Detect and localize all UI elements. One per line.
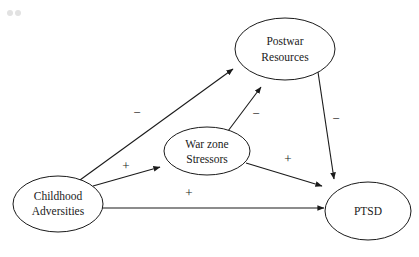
corner-dot-1 [7,10,13,16]
node-label-postwar-resources-line2: Resources [261,51,309,63]
corner-dot-2 [15,10,21,16]
edge-sign-war-zone-stressors-to-postwar-resources: − [252,106,259,121]
path-diagram-canvas: − + + − + − Childhood Adversities War zo… [0,0,419,257]
edge-sign-childhood-to-ptsd: + [185,185,192,200]
node-postwar-resources[interactable]: Postwar Resources [235,18,335,80]
node-label-war-zone-stressors-line2: Stressors [186,153,228,165]
node-war-zone-stressors[interactable]: War zone Stressors [164,127,250,175]
node-ellipse-war-zone-stressors[interactable] [164,127,250,175]
scan-artifact-group [7,10,21,16]
edge-sign-postwar-resources-to-ptsd: − [332,111,339,126]
edge-sign-childhood-to-postwar-resources: − [133,105,140,120]
node-ellipse-postwar-resources[interactable] [235,18,335,80]
node-label-childhood-adversities-line2: Adversities [32,205,85,217]
node-childhood-adversities[interactable]: Childhood Adversities [13,176,103,232]
edge-war-zone-stressors-to-ptsd [246,163,322,186]
edge-sign-war-zone-stressors-to-ptsd: + [284,151,291,166]
edge-sign-childhood-to-war-zone-stressors: + [122,158,129,173]
node-label-postwar-resources-line1: Postwar [266,35,303,47]
node-label-war-zone-stressors-line1: War zone [185,138,228,150]
node-ptsd[interactable]: PTSD [325,182,411,240]
path-diagram: − + + − + − Childhood Adversities War zo… [0,0,419,257]
node-label-childhood-adversities-line1: Childhood [34,190,83,202]
node-layer: Childhood Adversities War zone Stressors… [13,18,411,240]
node-label-ptsd-line1: PTSD [354,205,382,217]
